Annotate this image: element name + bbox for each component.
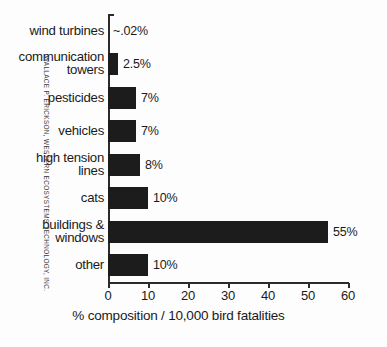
bar-value-label: ~.02%	[113, 24, 148, 38]
x-tick-label: 40	[261, 288, 275, 303]
x-tick-label: 20	[181, 288, 195, 303]
x-tick-label: 10	[141, 288, 155, 303]
bar	[108, 53, 118, 75]
x-tick-label: 0	[104, 288, 111, 303]
credit-text: WALLACE P. ERICKSON, WESTERN ECOSYSTEMS …	[39, 0, 53, 347]
bar	[108, 120, 136, 142]
bar-value-label: 55%	[333, 225, 357, 239]
bar-value-label: 10%	[153, 258, 177, 272]
plot-area: ~.02%2.5%7%7%8%10%55%10%	[108, 14, 348, 282]
bar-value-label: 7%	[141, 124, 159, 138]
x-tick-label: 30	[221, 288, 235, 303]
bar	[108, 254, 148, 276]
bar	[108, 87, 136, 109]
bar	[108, 187, 148, 209]
bar-value-label: 8%	[145, 158, 163, 172]
x-axis-title: % composition / 10,000 bird fatalities	[0, 308, 387, 323]
bird-fatalities-bar-chart: wind turbinescommunicationtowerspesticid…	[0, 0, 387, 347]
bar	[108, 221, 328, 243]
bar-value-label: 2.5%	[123, 57, 151, 71]
credit-holder: WALLACE P. ERICKSON, WESTERN ECOSYSTEMS …	[373, 0, 387, 347]
x-tick-label: 50	[301, 288, 315, 303]
x-tick-label: 60	[341, 288, 355, 303]
bar-value-label: 10%	[153, 191, 177, 205]
bar	[108, 154, 140, 176]
bar-value-label: 7%	[141, 91, 159, 105]
